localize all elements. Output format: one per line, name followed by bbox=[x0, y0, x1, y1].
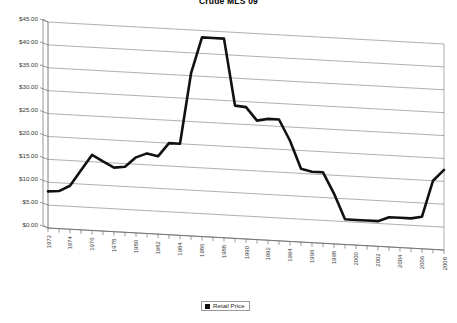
y-tick bbox=[40, 65, 48, 68]
series-retail-price bbox=[48, 37, 444, 221]
y-axis: $0.00$5.00$10.00$15.00$20.00$25.00$30.00… bbox=[19, 15, 48, 228]
chart-container: Crude MLS 09 $0.00$5.00$10.00$15.00$20.0… bbox=[0, 0, 457, 323]
x-axis: 1972197419761978198019821984198619881990… bbox=[46, 228, 448, 270]
gridline bbox=[48, 22, 444, 44]
gridline bbox=[48, 114, 444, 136]
y-tick-label: $10.00 bbox=[19, 175, 38, 182]
y-tick bbox=[40, 179, 48, 182]
x-tick-label: 1972 bbox=[46, 234, 52, 248]
y-tick-label: $25.00 bbox=[19, 106, 38, 113]
x-tick-label: 1984 bbox=[178, 242, 184, 256]
legend-swatch-retail-price bbox=[205, 304, 210, 309]
x-tick-label: 2002 bbox=[376, 253, 382, 267]
gridline bbox=[48, 205, 444, 227]
y-tick-label: $0.00 bbox=[23, 221, 39, 228]
x-tick-label: 1980 bbox=[134, 239, 140, 253]
gridline bbox=[48, 182, 444, 204]
series-line-retail-price bbox=[48, 37, 444, 221]
chart-plot-area: $0.00$5.00$10.00$15.00$20.00$25.00$30.00… bbox=[0, 0, 457, 323]
x-tick-label: 1986 bbox=[200, 243, 206, 257]
x-tick-label: 1978 bbox=[112, 238, 118, 252]
legend-label-retail-price: Retail Price bbox=[213, 302, 245, 310]
chart-legend: Retail Price bbox=[201, 301, 250, 311]
x-tick-label: 1998 bbox=[332, 250, 338, 264]
y-tick bbox=[40, 111, 48, 114]
gridline bbox=[48, 68, 444, 90]
x-tick-label: 1974 bbox=[68, 236, 74, 250]
y-tick-label: $35.00 bbox=[19, 61, 38, 68]
y-tick bbox=[40, 88, 48, 91]
y-tick-label: $5.00 bbox=[23, 198, 39, 205]
x-tick-label: 2006 bbox=[420, 255, 426, 269]
y-tick-label: $40.00 bbox=[19, 38, 38, 45]
gridline bbox=[48, 136, 444, 158]
x-tick-label: 1992 bbox=[266, 247, 272, 261]
x-tick-label: 1988 bbox=[222, 244, 228, 258]
y-tick-label: $45.00 bbox=[19, 15, 38, 22]
x-tick-label: 1976 bbox=[90, 237, 96, 251]
y-tick bbox=[40, 156, 48, 159]
x-tick-label: 1994 bbox=[288, 248, 294, 262]
x-tick-label: 2004 bbox=[398, 254, 404, 268]
gridline bbox=[48, 45, 444, 67]
x-tick-label: 2008 bbox=[442, 256, 448, 270]
y-tick bbox=[40, 42, 48, 45]
x-tick-label: 1996 bbox=[310, 249, 316, 263]
gridlines-group bbox=[48, 22, 444, 250]
y-tick bbox=[40, 202, 48, 205]
y-tick-label: $15.00 bbox=[19, 152, 38, 159]
x-tick-label: 1982 bbox=[156, 240, 162, 254]
y-tick-label: $30.00 bbox=[19, 83, 38, 90]
x-tick-label: 2000 bbox=[354, 251, 360, 265]
y-tick-label: $20.00 bbox=[19, 129, 38, 136]
gridline bbox=[48, 91, 444, 113]
y-tick bbox=[40, 133, 48, 136]
x-tick-label: 1990 bbox=[244, 245, 250, 259]
